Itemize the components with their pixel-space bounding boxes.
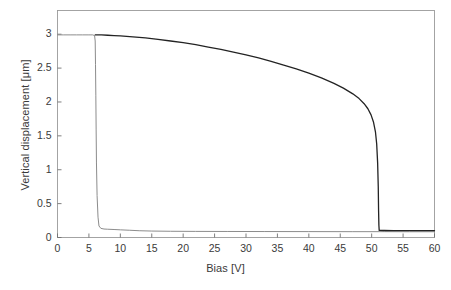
chart-figure: Bias [V] Vertical displacement [μm] 0510… [0, 0, 451, 290]
x-tick-label: 55 [388, 242, 418, 254]
y-tick-label: 1.5 [22, 129, 52, 141]
x-tick-label: 15 [137, 242, 167, 254]
x-tick-label: 35 [262, 242, 292, 254]
figure-caption-clipped [22, 279, 442, 288]
x-tick-label: 0 [43, 242, 73, 254]
x-tick-label: 60 [420, 242, 450, 254]
x-tick-label: 5 [74, 242, 104, 254]
y-axis-label-container: Vertical displacement [μm] [19, 5, 35, 245]
y-axis-label: Vertical displacement [μm] [19, 5, 31, 245]
x-tick-label: 45 [325, 242, 355, 254]
series-line-1 [95, 35, 434, 231]
x-tick-label: 25 [200, 242, 230, 254]
y-tick-label: 1 [22, 163, 52, 175]
y-tick-label: 2 [22, 95, 52, 107]
x-axis-label: Bias [V] [0, 262, 451, 274]
x-tick-label: 50 [357, 242, 387, 254]
data-series-group [58, 35, 435, 232]
x-tick-label: 10 [105, 242, 135, 254]
x-tick-label: 30 [231, 242, 261, 254]
y-tick-label: 0.5 [22, 197, 52, 209]
y-tick-label: 3 [22, 27, 52, 39]
x-tick-label: 40 [294, 242, 324, 254]
y-tick-label: 2.5 [22, 61, 52, 73]
x-tick-label: 20 [168, 242, 198, 254]
y-tick-label: 0 [22, 231, 52, 243]
